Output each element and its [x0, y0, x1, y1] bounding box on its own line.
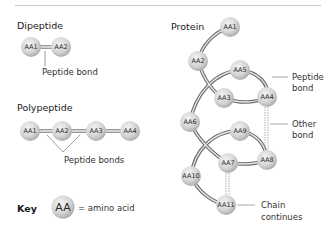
peptide-bonds-label: Peptide bonds — [64, 155, 125, 165]
svg-text:AA10: AA10 — [182, 172, 199, 180]
amino-acid-node: AA5 — [230, 60, 250, 80]
svg-text:AA4: AA4 — [260, 93, 273, 101]
svg-text:Other: Other — [292, 119, 317, 129]
callout-peptide-bond: Peptide bond — [272, 72, 324, 93]
protein-structure-diagram: Dipeptide AA1 AA2 Peptide bond Polypepti… — [0, 0, 334, 231]
amino-acid-node: AA10 — [181, 166, 201, 186]
svg-text:AA3: AA3 — [89, 127, 102, 135]
callout-chain-continues: Chain continues — [237, 200, 303, 222]
amino-acid-node: AA8 — [257, 150, 277, 170]
polypeptide-section: Polypeptide AA1 AA2 AA3 AA4 Peptide bond… — [17, 102, 140, 165]
amino-acid-node: AA1 — [21, 37, 41, 57]
amino-acid-node: AA2 — [188, 51, 208, 71]
svg-text:continues: continues — [261, 212, 303, 222]
polypeptide-title: Polypeptide — [17, 102, 73, 113]
amino-acid-node: AA2 — [52, 121, 72, 141]
svg-text:Chain: Chain — [261, 200, 285, 210]
amino-acid-node: AA11 — [216, 195, 236, 215]
amino-acid-node: AA1 — [220, 17, 240, 37]
svg-text:bond: bond — [292, 83, 313, 93]
amino-acid-node: AA3 — [86, 121, 106, 141]
svg-text:AA2: AA2 — [54, 43, 67, 51]
svg-text:AA4: AA4 — [123, 127, 136, 135]
amino-acid-node: AA9 — [230, 121, 250, 141]
amino-acid-node: AA3 — [214, 88, 234, 108]
svg-text:AA1: AA1 — [23, 127, 36, 135]
key-label: Key — [17, 203, 38, 214]
protein-section: Protein — [171, 17, 324, 222]
svg-text:AA1: AA1 — [223, 23, 236, 31]
svg-text:AA2: AA2 — [55, 127, 68, 135]
svg-text:Peptide: Peptide — [292, 72, 324, 82]
svg-text:AA5: AA5 — [233, 66, 246, 74]
svg-text:bond: bond — [292, 130, 313, 140]
svg-text:AA3: AA3 — [217, 94, 230, 102]
protein-title: Protein — [171, 21, 204, 32]
key-amino-acid-symbol: AA — [52, 196, 75, 219]
key-section: Key AA = amino acid — [17, 196, 135, 219]
svg-text:AA9: AA9 — [233, 127, 246, 135]
svg-text:AA7: AA7 — [221, 159, 234, 167]
svg-text:AA1: AA1 — [24, 43, 37, 51]
amino-acid-node: AA2 — [51, 37, 71, 57]
amino-acid-node: AA4 — [120, 121, 140, 141]
other-bonds — [226, 107, 268, 195]
callout-other-bond: Other bond — [270, 119, 317, 140]
svg-text:AA: AA — [55, 201, 71, 214]
dipeptide-title: Dipeptide — [17, 20, 63, 31]
svg-text:AA11: AA11 — [217, 201, 234, 209]
svg-text:AA2: AA2 — [191, 57, 204, 65]
amino-acid-node: AA7 — [218, 153, 238, 173]
dipeptide-section: Dipeptide AA1 AA2 Peptide bond — [17, 20, 98, 77]
peptide-bonds — [39, 130, 121, 132]
peptide-bond — [40, 46, 52, 48]
svg-text:AA6: AA6 — [183, 118, 196, 126]
amino-acid-node: AA4 — [257, 87, 277, 107]
key-meaning: = amino acid — [78, 203, 135, 213]
peptide-bond-label: Peptide bond — [42, 67, 98, 77]
svg-text:AA8: AA8 — [260, 156, 273, 164]
amino-acid-node: AA6 — [180, 112, 200, 132]
amino-acid-node: AA1 — [20, 121, 40, 141]
